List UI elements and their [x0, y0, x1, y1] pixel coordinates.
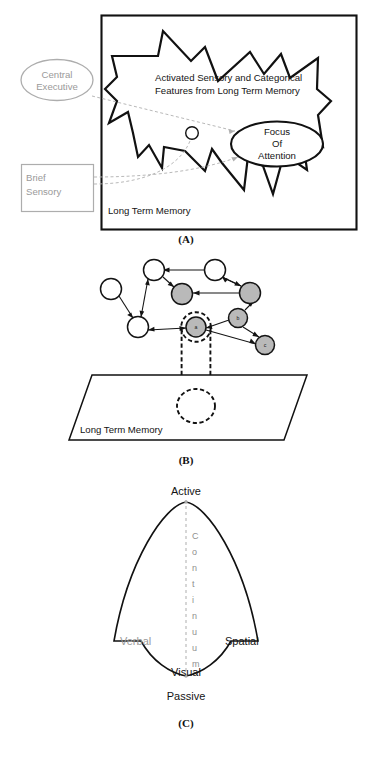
network-node-a-label: a: [195, 324, 198, 330]
figure-root: Activated Sensory and Categorical Featur…: [0, 0, 372, 761]
panel-a: Activated Sensory and Categorical Featur…: [0, 0, 372, 248]
network-node: [128, 317, 149, 338]
panel-c-label: (C): [178, 717, 194, 730]
long-term-memory-label: Long Term Memory: [108, 205, 191, 216]
brief-sensory-label-line1: Brief: [26, 172, 46, 183]
continuum-letter: u: [192, 643, 197, 653]
item-circle: [186, 127, 199, 140]
continuum-letter: C: [192, 531, 199, 541]
panel-b: a b c Long Term Memory (B): [0, 248, 372, 470]
continuum-letter: u: [192, 627, 197, 637]
panel-c-top-label: Active: [171, 485, 201, 497]
continuum-letter: n: [192, 563, 197, 573]
continuum-letter: n: [192, 611, 197, 621]
panel-c-right-label: Spatial: [225, 635, 259, 647]
continuum-letter: i: [192, 595, 194, 605]
network-node-b-label: b: [237, 315, 240, 321]
focus-label-line1: Focus: [264, 126, 290, 137]
continuum-letter: o: [192, 547, 197, 557]
panel-a-label: (A): [178, 233, 194, 246]
network-node-c-label: c: [264, 342, 267, 348]
panel-b-label: (B): [179, 454, 194, 467]
continuum-cone-shape: [114, 502, 258, 676]
focus-label-line2: Of: [272, 138, 282, 149]
network-node: [172, 284, 193, 305]
network-node: [144, 260, 165, 281]
network-node: [101, 279, 122, 300]
panel-c: Active C o n t i n u u m Verbal Spatial …: [0, 470, 372, 761]
central-executive-label-line2: Executive: [36, 81, 78, 92]
central-executive-ellipse: [21, 60, 93, 101]
panel-c-left-label: Verbal: [120, 635, 151, 647]
activated-region-label-line1: Activated Sensory and Categorical: [155, 72, 302, 83]
network-node: [240, 283, 261, 304]
central-executive-label-line1: Central: [42, 69, 73, 80]
focus-label-line3: Attention: [258, 150, 296, 161]
panel-c-bottom-label: Passive: [167, 690, 206, 702]
axis-top-dot: [184, 500, 187, 503]
network-node: [205, 260, 226, 281]
activated-region-label-line2: Features from Long Term Memory: [155, 85, 300, 96]
long-term-memory-plane-label: Long Term Memory: [80, 424, 163, 435]
panel-c-inner-bottom-label: Visual: [171, 666, 201, 678]
brief-sensory-label-line2: Sensory: [26, 186, 61, 197]
